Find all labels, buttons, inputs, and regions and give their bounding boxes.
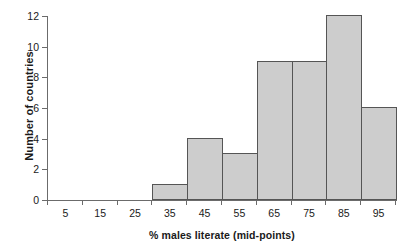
x-tick-label: 15 — [94, 208, 106, 219]
histogram-bar — [257, 61, 293, 200]
y-tick-mark — [42, 47, 47, 48]
x-tick-label: 5 — [62, 208, 68, 219]
x-tick-label: 95 — [373, 208, 385, 219]
y-tick-label: 0 — [33, 195, 39, 206]
histogram-bar — [361, 107, 397, 200]
y-tick-label: 10 — [27, 41, 39, 52]
x-tick-mark — [360, 200, 361, 205]
x-tick-mark — [291, 200, 292, 205]
x-tick-label: 35 — [164, 208, 176, 219]
x-tick-mark — [82, 200, 83, 205]
x-tick-mark — [117, 200, 118, 205]
x-tick-label: 85 — [338, 208, 350, 219]
x-tick-label: 25 — [129, 208, 141, 219]
x-tick-label: 75 — [303, 208, 315, 219]
y-tick-label: 12 — [27, 11, 39, 22]
histogram-bar — [187, 138, 223, 200]
x-tick-mark — [256, 200, 257, 205]
y-tick-mark — [42, 169, 47, 170]
y-tick-mark — [42, 139, 47, 140]
y-tick-mark — [42, 108, 47, 109]
histogram-bar — [292, 61, 328, 200]
y-tick-label: 2 — [33, 164, 39, 175]
x-tick-mark — [186, 200, 187, 205]
histogram-bar — [222, 153, 258, 200]
plot-area: 024681012 5152535455565758595 — [48, 16, 396, 200]
y-tick-label: 6 — [33, 103, 39, 114]
y-axis-line — [47, 16, 48, 201]
histogram-figure: Number of countries 024681012 5152535455… — [0, 0, 404, 249]
y-tick-label: 8 — [33, 72, 39, 83]
x-axis-title: % males literate (mid-points) — [48, 229, 396, 241]
y-tick-label: 4 — [33, 133, 39, 144]
x-axis-line — [47, 200, 397, 201]
x-tick-mark — [151, 200, 152, 205]
x-tick-mark — [47, 200, 48, 205]
x-tick-mark — [325, 200, 326, 205]
x-tick-label: 45 — [199, 208, 211, 219]
x-tick-mark — [221, 200, 222, 205]
x-tick-mark — [395, 200, 396, 205]
histogram-bar — [152, 184, 188, 200]
histogram-bar — [326, 15, 362, 200]
y-tick-mark — [42, 16, 47, 17]
y-tick-mark — [42, 77, 47, 78]
x-tick-label: 65 — [268, 208, 280, 219]
x-tick-label: 55 — [234, 208, 246, 219]
